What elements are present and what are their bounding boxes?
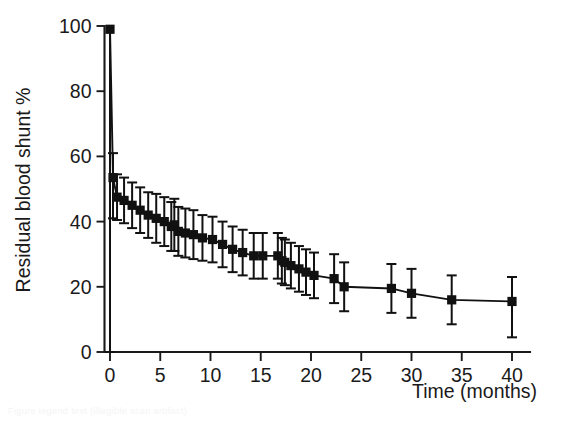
data-point-marker <box>228 245 237 254</box>
y-tick-label: 20 <box>70 276 92 298</box>
x-tick-label: 0 <box>105 364 116 386</box>
data-point-marker <box>108 173 117 182</box>
data-point-marker <box>208 235 217 244</box>
data-point-marker <box>407 289 416 298</box>
x-axis-title: Time (months) <box>412 380 537 402</box>
x-tick-label: 5 <box>155 364 166 386</box>
data-point-marker <box>189 230 198 239</box>
data-point-marker <box>249 251 258 260</box>
data-point-marker <box>198 233 207 242</box>
data-point-marker <box>301 268 310 277</box>
x-tick-label: 15 <box>250 364 272 386</box>
data-point-marker <box>144 210 153 219</box>
series-line <box>110 29 512 301</box>
error-bar <box>507 277 517 337</box>
data-point-marker <box>286 261 295 270</box>
data-point-marker <box>238 248 247 257</box>
y-axis-title: Residual blood shunt % <box>12 88 34 293</box>
x-tick-label: 20 <box>300 364 322 386</box>
data-point-marker <box>340 282 349 291</box>
data-point-marker <box>330 274 339 283</box>
axis-lines <box>105 26 531 352</box>
data-point-marker <box>218 240 227 249</box>
chart-plot: 0204060801000510152025303540Time (months… <box>0 0 567 428</box>
axes <box>105 26 531 352</box>
y-tick-label: 80 <box>70 80 92 102</box>
data-point-marker <box>387 284 396 293</box>
data-point-marker <box>119 196 128 205</box>
y-axis-ticks: 020406080100 <box>59 15 105 363</box>
data-series <box>105 25 517 352</box>
data-point-marker <box>258 251 267 260</box>
x-tick-label: 10 <box>200 364 222 386</box>
data-point-marker <box>507 297 516 306</box>
y-tick-label: 40 <box>70 211 92 233</box>
data-point-marker <box>152 214 161 223</box>
x-tick-label: 25 <box>350 364 372 386</box>
data-point-marker <box>309 271 318 280</box>
figure-caption: Figure legend text (illegible scan artif… <box>8 406 338 416</box>
y-tick-label: 0 <box>81 341 92 363</box>
data-point-marker <box>181 228 190 237</box>
data-point-marker <box>447 295 456 304</box>
y-tick-label: 60 <box>70 145 92 167</box>
y-tick-label: 100 <box>59 15 92 37</box>
figure-container: 0204060801000510152025303540Time (months… <box>0 0 567 428</box>
data-point-marker <box>105 25 114 34</box>
data-point-marker <box>128 201 137 210</box>
data-point-marker <box>136 206 145 215</box>
